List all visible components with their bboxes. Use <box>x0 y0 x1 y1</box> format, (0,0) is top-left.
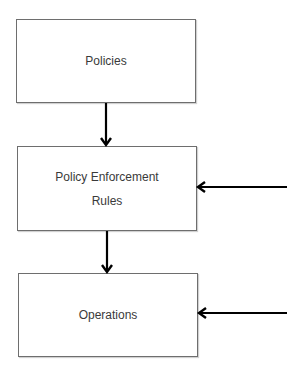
arrow-rules-to-operations <box>102 231 112 272</box>
arrow-policies-to-rules <box>101 103 111 145</box>
arrows-layer <box>0 0 304 379</box>
arrow-external-to-rules <box>198 182 287 192</box>
arrow-external-to-operations <box>199 308 287 318</box>
